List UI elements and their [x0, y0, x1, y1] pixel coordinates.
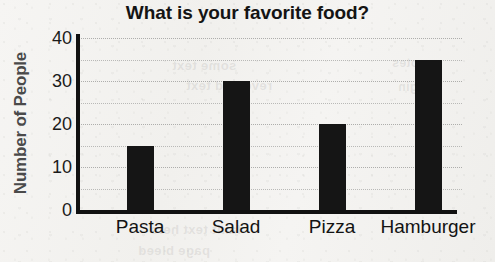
bar: [127, 146, 154, 211]
chart-title: What is your favorite food?: [0, 2, 495, 24]
y-axis-tick-label: 40: [38, 28, 72, 49]
x-axis-line: [76, 210, 457, 214]
bar: [415, 60, 442, 211]
gridline: [78, 103, 462, 104]
x-axis-tick-label: Pizza: [309, 216, 355, 238]
plot-area: [78, 38, 462, 210]
gridline: [78, 124, 462, 125]
gridline: [78, 38, 462, 39]
x-axis-tick-label: Hamburger: [380, 216, 475, 238]
y-axis-tick-label: 0: [38, 200, 72, 221]
x-axis-tick-label: Salad: [212, 216, 261, 238]
y-axis-tick-label: 10: [38, 157, 72, 178]
bar: [319, 124, 346, 210]
chart-page: some text reversed text faint text here …: [0, 0, 495, 262]
y-axis-label: Number of People: [11, 30, 31, 216]
y-axis-tick-label: 30: [38, 71, 72, 92]
x-axis-tick-labels: PastaSaladPizzaHamburger: [78, 216, 495, 248]
y-axis-tick-labels: 010203040: [34, 0, 72, 262]
bar: [223, 81, 250, 210]
y-axis-line: [76, 34, 80, 214]
y-axis-tick-label: 20: [38, 114, 72, 135]
gridline: [78, 60, 462, 61]
x-axis-tick-label: Pasta: [116, 216, 165, 238]
gridline: [78, 81, 462, 82]
